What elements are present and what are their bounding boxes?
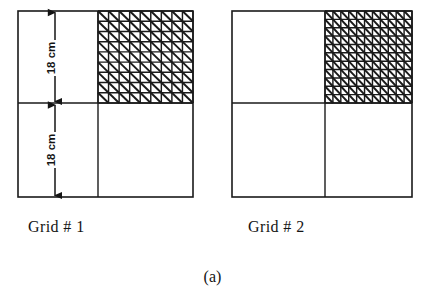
mesh-line [357,95,365,103]
figure-root: 18 cm 18 cm Grid # 1 Grid # 2 (a) [0,0,425,299]
mesh-line [161,31,172,41]
mesh-line [380,11,388,19]
figure-caption: (a) [0,268,425,286]
mesh-line [140,21,151,31]
mesh-line [140,11,151,21]
mesh-line [372,86,380,94]
mesh-line [396,95,404,103]
mesh-line [151,62,162,72]
mesh-line [349,61,357,69]
mesh-line [372,78,380,86]
mesh-line [333,36,341,44]
mesh-line [98,52,109,62]
mesh-line [396,53,404,61]
mesh-line [365,11,373,19]
mesh-line [365,61,373,69]
mesh-line [172,93,183,103]
mesh-line [372,44,380,52]
mesh-line [109,52,120,62]
mesh-line [404,70,412,78]
mesh-line [380,19,388,27]
mesh-line [333,78,341,86]
mesh-line [109,42,120,52]
mesh-line [365,44,373,52]
mesh-line [333,61,341,69]
mesh-line [325,19,333,27]
mesh-line [380,86,388,94]
mesh-line [182,21,193,31]
mesh-line [109,83,120,93]
mesh-line [109,93,120,103]
mesh-line [349,86,357,94]
mesh-line [333,11,341,19]
mesh-line [119,93,130,103]
mesh-line [161,62,172,72]
mesh-line [325,70,333,78]
mesh-line [130,11,141,21]
mesh-line [357,86,365,94]
mesh-line [349,28,357,36]
mesh-line [341,36,349,44]
mesh-line [98,42,109,52]
mesh-line [172,52,183,62]
mesh-line [365,86,373,94]
mesh-line [357,19,365,27]
mesh-line [365,78,373,86]
mesh-line [182,52,193,62]
mesh-line [109,31,120,41]
mesh-line [130,93,141,103]
mesh-line [130,83,141,93]
mesh-line [151,31,162,41]
mesh-line [182,11,193,21]
mesh-line [325,44,333,52]
mesh-line [98,83,109,93]
mesh-line [404,53,412,61]
mesh-line [349,70,357,78]
mesh-line [372,36,380,44]
mesh-line [140,93,151,103]
mesh-line [388,70,396,78]
mesh-line [396,78,404,86]
mesh-line [380,78,388,86]
mesh-line [396,86,404,94]
mesh-line [161,21,172,31]
mesh-line [388,78,396,86]
mesh-line [140,72,151,82]
mesh-line [182,93,193,103]
mesh-line [396,11,404,19]
mesh-line [365,36,373,44]
mesh-line [372,53,380,61]
mesh-line [151,11,162,21]
mesh-line [325,28,333,36]
mesh-line [349,78,357,86]
mesh-line [388,19,396,27]
mesh-line [404,44,412,52]
mesh-line [404,78,412,86]
mesh-line [341,70,349,78]
mesh-line [341,61,349,69]
mesh-line [119,31,130,41]
mesh-line [372,70,380,78]
mesh-line [161,11,172,21]
mesh-line [404,95,412,103]
mesh-line [119,62,130,72]
mesh-line [161,52,172,62]
mesh-line [388,86,396,94]
mesh-line [349,36,357,44]
mesh-line [172,21,183,31]
mesh-line [349,53,357,61]
mesh-line [119,72,130,82]
mesh-line [182,62,193,72]
mesh-line [325,86,333,94]
mesh-line [172,62,183,72]
dimension-lower: 18 cm [45,105,65,196]
mesh-line [119,21,130,31]
mesh-line [182,72,193,82]
mesh-line [161,93,172,103]
mesh-line [130,31,141,41]
mesh-line [140,62,151,72]
mesh-line [396,36,404,44]
mesh-line [349,95,357,103]
mesh-line [161,72,172,82]
mesh-line [365,70,373,78]
